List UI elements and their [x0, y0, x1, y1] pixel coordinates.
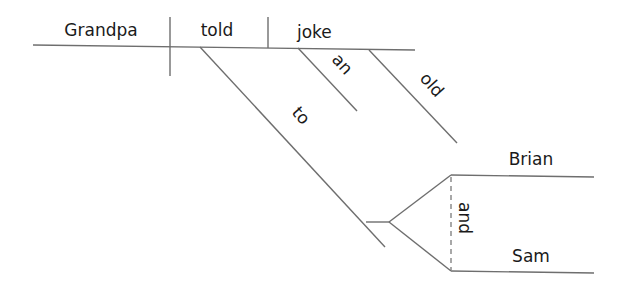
- word-object: joke: [296, 22, 332, 42]
- preposition-line: [200, 47, 385, 247]
- word-subject: Grandpa: [64, 20, 137, 40]
- word-modifier-old: old: [416, 68, 448, 101]
- word-compound-object-2: Sam: [512, 246, 550, 266]
- word-preposition: to: [288, 102, 314, 128]
- fork-lower-branch: [389, 222, 451, 271]
- word-modifier-an: an: [328, 49, 357, 78]
- baseline: [33, 45, 415, 50]
- word-conjunction: and: [455, 202, 475, 234]
- word-compound-object-1: Brian: [509, 149, 554, 169]
- compound-line-upper: [451, 175, 594, 177]
- word-verb: told: [201, 20, 234, 40]
- sentence-diagram: Grandpa told joke an old to Brian Sam an…: [0, 0, 619, 293]
- compound-line-lower: [451, 271, 594, 273]
- fork-upper-branch: [389, 175, 451, 222]
- modifier-line-old: [369, 50, 457, 143]
